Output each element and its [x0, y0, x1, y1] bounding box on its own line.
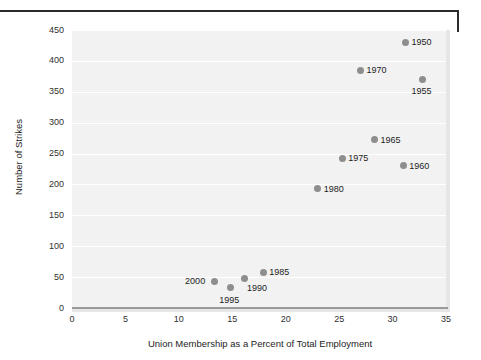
- x-tick-30: 30: [378, 315, 408, 324]
- data-point-1995: [227, 284, 234, 291]
- data-point-label-1950: 1950: [411, 38, 431, 47]
- data-point-label-1970: 1970: [367, 66, 387, 75]
- x-tick-25: 25: [324, 315, 354, 324]
- data-point-1970: [357, 67, 364, 74]
- chart-page: 050100150200250300350400450 051015202530…: [0, 0, 481, 360]
- data-point-1950: [402, 39, 409, 46]
- data-point-label-1965: 1965: [380, 136, 400, 145]
- data-point-label-1990: 1990: [247, 284, 267, 293]
- data-point-label-1960: 1960: [409, 162, 429, 171]
- x-tick-35: 35: [431, 315, 461, 324]
- data-point-label-1975: 1975: [348, 154, 368, 163]
- x-tick-5: 5: [110, 315, 140, 324]
- data-point-1975: [339, 155, 346, 162]
- gridline-y-150: [72, 215, 446, 216]
- data-point-1955: [419, 76, 426, 83]
- x-tick-20: 20: [271, 315, 301, 324]
- data-point-1990: [241, 275, 248, 282]
- gridline-y-50: [72, 277, 446, 278]
- data-point-label-1985: 1985: [269, 268, 289, 277]
- data-point-label-1995: 1995: [219, 296, 239, 305]
- gridline-y-450: [72, 30, 446, 31]
- page-border-right: [457, 10, 459, 32]
- y-axis-title: Number of Strikes: [14, 92, 24, 222]
- x-tick-15: 15: [217, 315, 247, 324]
- data-point-1985: [260, 269, 267, 276]
- y-tick-50: 50: [28, 273, 64, 282]
- y-tick-450: 450: [28, 26, 64, 35]
- y-tick-250: 250: [28, 149, 64, 158]
- x-tick-0: 0: [57, 315, 87, 324]
- y-tick-200: 200: [28, 180, 64, 189]
- y-tick-0: 0: [28, 304, 64, 313]
- x-axis-line: [72, 307, 448, 309]
- data-point-label-2000: 2000: [185, 277, 205, 286]
- y-tick-350: 350: [28, 87, 64, 96]
- gridline-y-100: [72, 246, 446, 247]
- y-tick-100: 100: [28, 242, 64, 251]
- data-point-2000: [211, 278, 218, 285]
- data-point-label-1955: 1955: [411, 87, 431, 96]
- gridline-y-200: [72, 184, 446, 185]
- y-tick-400: 400: [28, 56, 64, 65]
- gridline-y-250: [72, 154, 446, 155]
- gridline-y-300: [72, 123, 446, 124]
- gridline-y-400: [72, 61, 446, 62]
- scatter-plot-area: [72, 30, 446, 308]
- y-tick-150: 150: [28, 211, 64, 220]
- x-axis-title: Union Membership as a Percent of Total E…: [72, 338, 448, 349]
- page-border-top: [0, 10, 459, 12]
- y-tick-300: 300: [28, 118, 64, 127]
- data-point-label-1980: 1980: [324, 185, 344, 194]
- gridline-y-350: [72, 92, 446, 93]
- x-tick-10: 10: [164, 315, 194, 324]
